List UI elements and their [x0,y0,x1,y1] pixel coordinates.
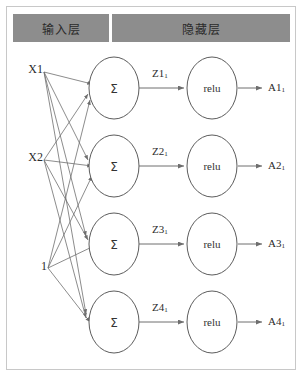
network-graph: X1 X2 1 Σ Z11 relu A11 Σ Z21 relu A21 [0,0,304,378]
input-to-sum-edges [44,72,94,322]
sum-node-3-label: Σ [110,238,118,252]
activation-node-1-label: relu [203,82,221,94]
input-label-x1: X1 [28,62,43,76]
z-label-3: Z31 [152,223,168,236]
neural-network-diagram-page: 输入层 隐藏层 X1 [0,0,304,378]
sum-node-2-label: Σ [110,160,118,174]
output-label-3: A31 [268,237,285,250]
output-label-1: A11 [268,81,285,94]
sum-node-1-label: Σ [110,82,118,96]
sum-node-4-label: Σ [110,316,118,330]
activation-node-3-label: relu [203,238,221,250]
neuron-row-1: Σ Z11 relu A11 [89,57,285,119]
neuron-row-3: Σ Z31 relu A31 [89,213,285,275]
neuron-row-4: Σ Z41 relu A41 [89,291,285,353]
neuron-row-2: Σ Z21 relu A21 [89,135,285,197]
output-label-4: A41 [268,315,285,328]
z-label-4: Z41 [152,301,168,314]
input-labels: X1 X2 1 [28,62,47,273]
input-label-x2: X2 [28,150,43,164]
activation-node-2-label: relu [203,160,221,172]
z-label-2: Z21 [152,145,168,158]
input-label-bias: 1 [41,259,47,273]
output-label-2: A21 [268,159,285,172]
activation-node-4-label: relu [203,316,221,328]
z-label-1: Z11 [152,67,168,80]
